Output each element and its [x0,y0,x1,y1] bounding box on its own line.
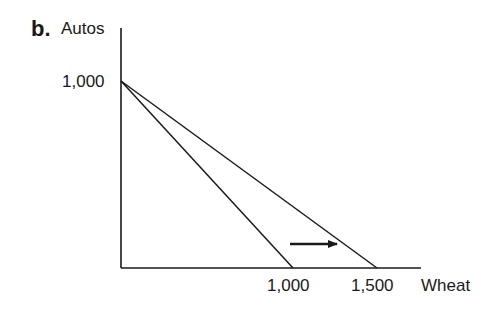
y-axis-label: Autos [61,20,104,37]
original-ppf-line [121,81,293,268]
chart-canvas [0,0,501,314]
new-ppf-line [121,81,377,268]
y-tick-label-1000: 1,000 [62,73,105,90]
panel-label: b. [31,18,51,40]
x-axis-label: Wheat [421,277,470,294]
ppf-figure: b. Autos 1,000 1,000 1,500 Wheat [0,0,501,314]
x-tick-label-1500: 1,500 [351,277,394,294]
x-tick-label-1000: 1,000 [267,277,310,294]
